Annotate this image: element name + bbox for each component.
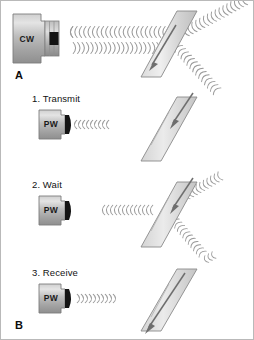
panel-b2-wave-incident [102, 205, 153, 215]
panel-b3-probe-pw: PW [39, 284, 71, 313]
part-label-b: B [15, 319, 23, 331]
panel-b3-probe-label: PW [44, 293, 59, 303]
panel-a-probe-cw: CW [13, 14, 59, 63]
panel-b3-vessel [141, 269, 197, 331]
panel-b2-vessel [141, 182, 197, 247]
part-label-a: A [15, 69, 23, 81]
panel-b1-probe-label: PW [44, 119, 59, 129]
step-label-wait: 2. Wait [32, 179, 62, 190]
panel-a: CW [13, 1, 248, 95]
panel-b1-probe-pw: PW [39, 110, 71, 139]
step-label-receive: 3. Receive [32, 267, 78, 278]
panel-a-wave-train-lower [73, 42, 168, 54]
panel-b3-wave-residual [203, 251, 217, 264]
panel-a-wave-train-upper [70, 26, 169, 38]
panel-b2: PW [39, 172, 223, 258]
panel-b2-probe-label: PW [44, 205, 59, 215]
panel-a-probe-label: CW [20, 34, 35, 44]
step-label-transmit: 1. Transmit [32, 93, 80, 104]
ultrasound-transducer-figure: CW PW [0, 0, 254, 340]
panel-b1-vessel [141, 97, 197, 161]
figure-canvas: CW PW [1, 1, 254, 340]
panel-b3-wave-echo [77, 294, 116, 303]
panel-b1-wave-burst [74, 120, 109, 129]
panel-b3: PW [39, 251, 216, 334]
panel-b2-probe-pw: PW [39, 196, 71, 225]
panel-a-reflected-beam [173, 43, 221, 95]
